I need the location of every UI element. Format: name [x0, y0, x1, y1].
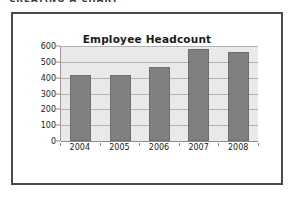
figure-frame: Employee Headcount 0100200300400500600 2… — [11, 12, 283, 185]
gridline-0 — [61, 141, 258, 142]
bar-2005 — [110, 75, 131, 142]
x-axis-label-2008: 2008 — [221, 143, 255, 152]
bar-chart: Employee Headcount 0100200300400500600 2… — [13, 14, 281, 183]
x-axis-tick — [60, 143, 61, 146]
y-axis-label: 100 — [26, 121, 56, 130]
y-axis-label: 300 — [26, 89, 56, 98]
x-axis-label-2004: 2004 — [63, 143, 97, 152]
x-axis-label-2005: 2005 — [102, 143, 136, 152]
x-axis-tick — [218, 143, 219, 146]
page-heading: CREATING A CHART — [9, 0, 119, 4]
x-axis-tick — [179, 143, 180, 146]
plot-region — [60, 46, 258, 141]
y-axis-label: 600 — [26, 42, 56, 51]
bar-2007 — [188, 49, 209, 141]
x-axis-tick — [258, 143, 259, 146]
y-axis-label: 0 — [26, 137, 56, 146]
y-axis-label: 200 — [26, 105, 56, 114]
bar-series — [61, 46, 258, 141]
bar-2008 — [228, 52, 249, 141]
x-axis-label-2007: 2007 — [182, 143, 216, 152]
x-axis: 20042005200620072008 — [60, 143, 258, 157]
y-axis-label: 400 — [26, 73, 56, 82]
y-axis-label: 500 — [26, 57, 56, 66]
x-axis-label-2006: 2006 — [142, 143, 176, 152]
x-axis-tick — [100, 143, 101, 146]
y-axis: 0100200300400500600 — [22, 46, 56, 141]
bar-2004 — [70, 75, 91, 142]
bar-2006 — [149, 67, 170, 141]
x-axis-tick — [139, 143, 140, 146]
